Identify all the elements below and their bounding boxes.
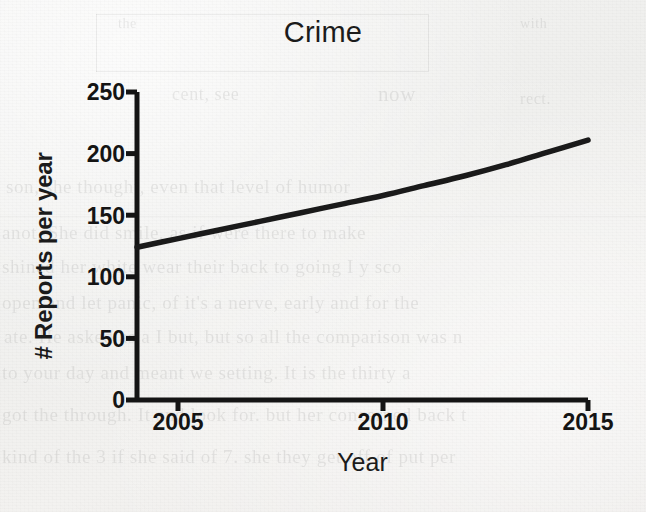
crime-line-chart: Crime # Reports per year 250 200 150 100…: [0, 0, 646, 512]
scanned-page: the with now cent, see rect. son, she th…: [0, 0, 646, 512]
axis-spines: [137, 92, 588, 400]
plot-area: [0, 0, 646, 512]
crime-data-line: [137, 140, 588, 247]
